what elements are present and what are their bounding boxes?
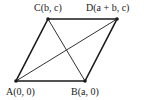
point-c	[46, 17, 50, 21]
label-b: B(a, 0)	[71, 87, 99, 97]
label-a: A(0, 0)	[6, 87, 35, 97]
point-b	[83, 79, 87, 83]
point-a	[14, 79, 18, 83]
parallelogram-diagram	[0, 0, 144, 100]
label-c: C(b, c)	[34, 3, 62, 13]
label-d: D(a + b, c)	[86, 3, 129, 13]
point-d	[115, 17, 119, 21]
diagonal-cb	[48, 19, 85, 81]
